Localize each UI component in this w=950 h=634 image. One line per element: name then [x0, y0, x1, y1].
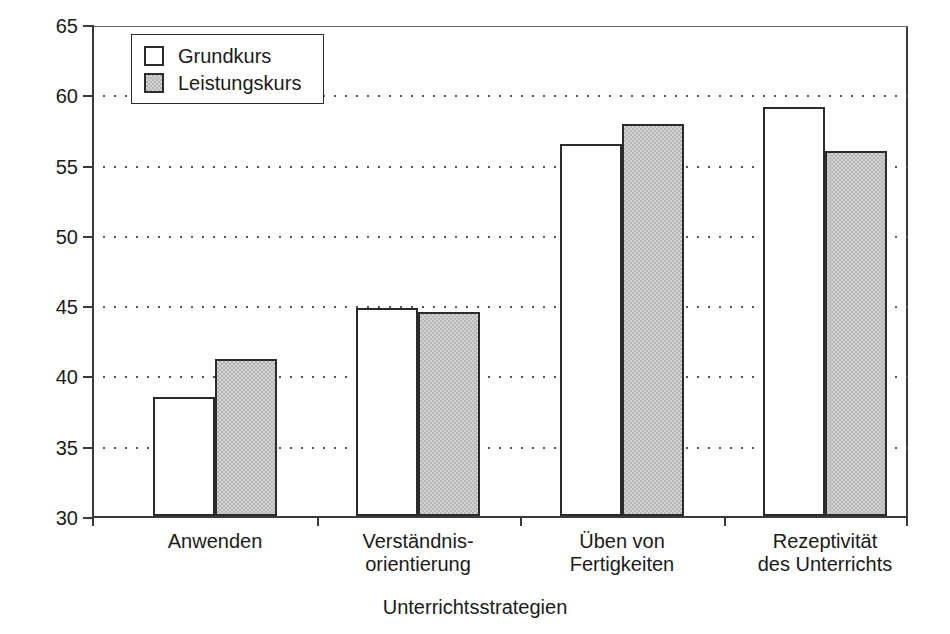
x-category-label-3: Rezeptivität des Unterrichts	[715, 530, 935, 576]
x-tick-mark-0	[92, 518, 94, 526]
y-tick-label-40: 40	[56, 367, 78, 387]
plot-top-edge	[92, 26, 908, 27]
x-axis-title: Unterrichtsstrategien	[0, 596, 950, 619]
x-category-label-0: Anwenden	[105, 530, 325, 553]
y-tick-mark-45	[83, 306, 94, 308]
plot-right-edge	[906, 26, 908, 518]
bar-leistungskurs-3	[825, 151, 887, 516]
y-tick-label-45: 45	[56, 297, 78, 317]
x-axis-line	[92, 516, 908, 518]
y-tick-label-65: 65	[56, 16, 78, 36]
bar-grundkurs-0	[153, 397, 215, 516]
x-tick-mark-3	[724, 518, 726, 526]
legend: GrundkursLeistungskurs	[131, 34, 324, 104]
y-tick-mark-60	[83, 95, 94, 97]
bar-leistungskurs-2	[622, 124, 684, 516]
y-tick-mark-40	[83, 376, 94, 378]
x-tick-mark-2	[520, 518, 522, 526]
bar-leistungskurs-1	[418, 312, 480, 516]
y-tick-mark-55	[83, 166, 94, 168]
y-tick-mark-65	[83, 25, 94, 27]
y-tick-label-55: 55	[56, 157, 78, 177]
x-category-label-1: Verständnis- orientierung	[308, 530, 528, 576]
y-tick-mark-35	[83, 447, 94, 449]
x-tick-mark-4	[906, 518, 908, 526]
legend-item-leistungskurs: Leistungskurs	[144, 69, 301, 96]
bar-leistungskurs-0	[215, 359, 277, 516]
figure-bar-chart: Skalenwert (Neutralitätspunkt = 50; SD =…	[0, 0, 950, 634]
y-tick-label-60: 60	[56, 86, 78, 106]
legend-swatch-light	[144, 46, 164, 66]
y-tick-label-30: 30	[56, 508, 78, 528]
y-tick-label-50: 50	[56, 227, 78, 247]
y-axis-line	[92, 26, 94, 518]
legend-swatch-shaded	[144, 73, 164, 93]
x-category-label-2: Üben von Fertigkeiten	[512, 530, 732, 576]
legend-item-grundkurs: Grundkurs	[144, 42, 301, 69]
bar-grundkurs-1	[356, 308, 418, 516]
legend-label-1: Leistungskurs	[178, 73, 301, 93]
bar-grundkurs-3	[763, 107, 825, 516]
y-tick-label-35: 35	[56, 438, 78, 458]
legend-label-0: Grundkurs	[178, 46, 271, 66]
bar-grundkurs-2	[560, 144, 622, 517]
x-tick-mark-1	[317, 518, 319, 526]
y-tick-mark-50	[83, 236, 94, 238]
